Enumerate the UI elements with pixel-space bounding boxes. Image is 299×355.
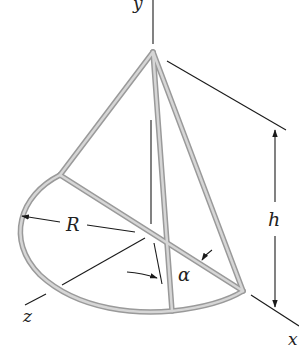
x-axis-label: x bbox=[288, 329, 298, 349]
angle-arrow-right bbox=[202, 250, 212, 260]
radius-label: R bbox=[65, 214, 80, 235]
z-axis-line bbox=[62, 238, 145, 285]
cone-rod-diagram: y R h α z x bbox=[0, 0, 299, 355]
angle-label: α bbox=[178, 264, 190, 285]
z-axis-label: z bbox=[22, 306, 33, 326]
z-axis-line-outer bbox=[25, 294, 46, 305]
y-axis-label: y bbox=[132, 0, 143, 13]
rod-frame bbox=[20, 52, 243, 312]
radius-dimension-line bbox=[22, 216, 60, 222]
height-extension-line-top bbox=[167, 61, 286, 130]
angle-arrow-left bbox=[127, 272, 157, 278]
radius-dimension-line-right bbox=[87, 225, 135, 232]
height-label: h bbox=[268, 208, 280, 230]
